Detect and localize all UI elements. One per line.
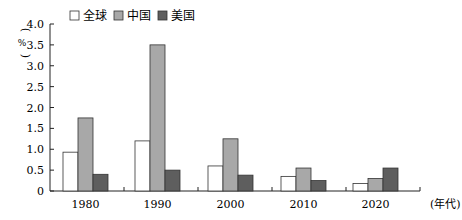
bar-全球-2020	[353, 183, 368, 191]
bar-全球-2000	[208, 166, 223, 191]
y-tick-label: 0.5	[27, 164, 45, 177]
bar-美国-2020	[383, 168, 398, 191]
legend-swatch-中国	[114, 11, 123, 20]
bar-中国-2020	[368, 178, 383, 191]
y-tick-label: 2.0	[27, 102, 45, 115]
bar-中国-2010	[296, 168, 311, 191]
x-tick-label: 2000	[217, 198, 245, 211]
legend-label: 美国	[171, 9, 195, 23]
chart-root: 00.51.01.52.02.53.03.54.0(%)198019902000…	[0, 0, 462, 220]
bar-全球-2010	[281, 176, 296, 191]
bar-中国-1980	[78, 118, 93, 191]
bar-美国-2000	[238, 175, 253, 191]
bar-chart: 00.51.01.52.02.53.03.54.0(%)198019902000…	[0, 0, 462, 220]
bar-美国-1980	[93, 174, 108, 191]
y-tick-label: 2.5	[27, 81, 45, 94]
x-axis-label: (年代)	[430, 197, 461, 211]
bar-美国-1990	[165, 170, 180, 191]
legend-label: 中国	[127, 8, 151, 23]
y-tick-label: 3.5	[27, 39, 45, 52]
bar-全球-1980	[63, 152, 78, 191]
y-tick-label: 0	[37, 185, 44, 198]
bar-全球-1990	[135, 141, 150, 191]
bar-中国-1990	[150, 45, 165, 191]
x-tick-label: 2020	[362, 198, 390, 211]
y-axis-paren-close: )	[19, 54, 32, 58]
legend-swatch-美国	[158, 11, 167, 20]
y-tick-label: 1.5	[27, 122, 45, 135]
y-axis-paren-open: (	[19, 28, 32, 32]
legend-label: 全球	[83, 8, 107, 23]
bar-中国-2000	[223, 139, 238, 191]
x-tick-label: 1980	[72, 198, 100, 211]
y-axis-unit: %	[18, 38, 27, 48]
x-tick-label: 1990	[144, 198, 172, 211]
y-tick-label: 1.0	[27, 143, 45, 156]
x-tick-label: 2010	[290, 198, 318, 211]
y-tick-label: 3.0	[27, 60, 45, 73]
bar-美国-2010	[311, 181, 326, 191]
legend-swatch-全球	[70, 11, 79, 20]
